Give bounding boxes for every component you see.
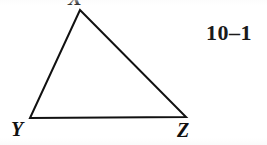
vertex-label-y: Y xyxy=(11,119,23,139)
vertex-label-z: Z xyxy=(177,120,189,140)
triangle-xyz-outline xyxy=(30,10,186,118)
vertex-label-x: X xyxy=(68,0,82,9)
figure-number-caption: 10–1 xyxy=(206,22,252,44)
figure-container: X Y Z 10–1 xyxy=(0,0,267,145)
